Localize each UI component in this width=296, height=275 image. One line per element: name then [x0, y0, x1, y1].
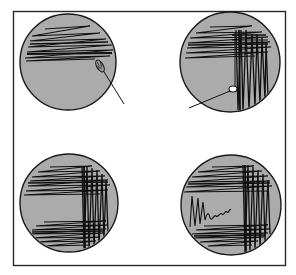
- streak-plate-diagram: Streak plate technique: four sequential …: [0, 0, 296, 275]
- panel-step-3: [20, 154, 118, 252]
- panel-step-2: [180, 12, 280, 112]
- panel-step-4: [181, 155, 281, 255]
